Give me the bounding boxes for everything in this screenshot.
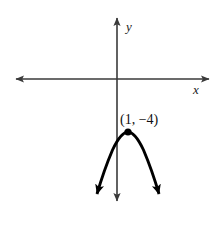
x-axis-label: x xyxy=(192,82,199,97)
graph-figure: x y (1, −4) xyxy=(0,0,221,225)
vertex-coordinate-label: (1, −4) xyxy=(120,112,159,128)
parabola-right-branch xyxy=(128,132,159,194)
x-axis: x xyxy=(16,79,209,97)
coordinate-plane-svg: x y (1, −4) xyxy=(0,0,221,225)
parabola-left-branch xyxy=(97,132,128,194)
parabola-curve xyxy=(97,132,159,194)
y-axis-label: y xyxy=(124,19,132,34)
y-axis: y xyxy=(117,18,132,201)
vertex-point-marker xyxy=(124,128,131,135)
